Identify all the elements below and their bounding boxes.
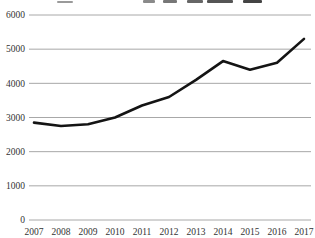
y-axis-tick-label: 2000 bbox=[6, 147, 25, 157]
y-axis-tick-label: 4000 bbox=[6, 79, 25, 89]
y-axis-tick-label: 3000 bbox=[6, 113, 25, 123]
x-axis-tick-label: 2012 bbox=[160, 227, 179, 237]
x-axis-tick-label: 2015 bbox=[241, 227, 260, 237]
y-axis-tick-label: 0 bbox=[20, 215, 25, 225]
x-axis-tick-label: 2016 bbox=[268, 227, 287, 237]
x-axis-tick-label: 2009 bbox=[79, 227, 98, 237]
y-axis-tick-label: 6000 bbox=[6, 10, 25, 20]
y-axis-tick-label: 5000 bbox=[6, 44, 25, 54]
y-axis-tick-label: 1000 bbox=[6, 181, 25, 191]
x-axis-tick-label: 2010 bbox=[106, 227, 125, 237]
chart-plot-area: 0100020003000400050006000200720082009201… bbox=[0, 0, 315, 238]
line-chart: 0100020003000400050006000200720082009201… bbox=[0, 0, 315, 238]
x-axis-tick-label: 2014 bbox=[214, 227, 233, 237]
x-axis-tick-label: 2017 bbox=[295, 227, 314, 237]
x-axis-tick-label: 2011 bbox=[133, 227, 152, 237]
x-axis-tick-label: 2007 bbox=[25, 227, 44, 237]
x-axis-tick-label: 2008 bbox=[52, 227, 71, 237]
data-line-series bbox=[34, 39, 304, 126]
x-axis-tick-label: 2013 bbox=[187, 227, 206, 237]
